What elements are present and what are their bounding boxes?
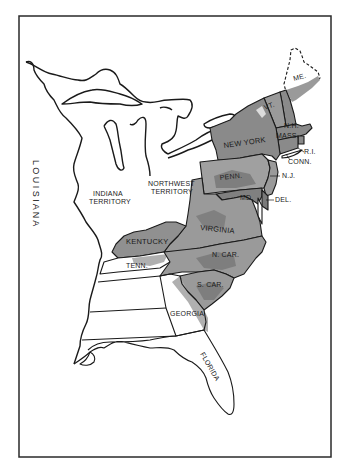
historical-us-map: L O U I S I A N A INDIANA TERRITORY NORT… [0, 0, 345, 467]
label-louisiana: L O U I S I A N A [31, 160, 41, 226]
label-north-carolina: N. CAR. [212, 251, 239, 258]
label-connecticut: CONN. [288, 158, 312, 165]
label-northwest-territory-1: NORTHWEST [148, 180, 195, 187]
label-indiana-territory-1: INDIANA [93, 190, 123, 197]
label-rhode-island: R.I. [304, 148, 316, 155]
region-rhode-island [298, 136, 304, 144]
label-delaware: DEL. [275, 196, 291, 203]
label-new-hampshire: N.H. [284, 122, 299, 129]
label-georgia: GEORGIA [170, 310, 204, 317]
label-massachusetts: MASS. [276, 132, 299, 139]
label-new-jersey: N.J. [282, 172, 295, 179]
label-tennessee: TENN. [126, 262, 148, 269]
label-maryland: MD. [240, 194, 253, 201]
label-kentucky: KENTUCKY [126, 237, 168, 246]
label-indiana-territory-2: TERRITORY [89, 198, 131, 205]
label-northwest-territory-2: TERRITORY [151, 188, 193, 195]
label-south-carolina: S. CAR. [197, 281, 224, 288]
